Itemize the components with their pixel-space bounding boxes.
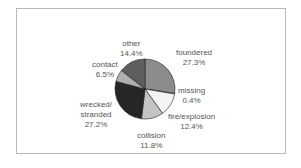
label-collision-pct: 11.8% bbox=[137, 141, 165, 151]
label-contact-pct: 6.5% bbox=[92, 70, 118, 80]
pie-slices bbox=[115, 59, 175, 119]
label-missing: missing 0.4% bbox=[178, 86, 205, 106]
label-other-name: other bbox=[120, 39, 143, 49]
label-fire-name: fire/explosion bbox=[168, 112, 215, 122]
label-collision-name: collision bbox=[137, 131, 165, 141]
label-contact-name: contact bbox=[92, 60, 118, 70]
label-foundered-pct: 27.3% bbox=[176, 58, 212, 68]
label-missing-name: missing bbox=[178, 86, 205, 96]
label-other-pct: 14.4% bbox=[120, 49, 143, 59]
pie-slice-foundered bbox=[145, 59, 175, 93]
label-foundered-name: foundered bbox=[176, 48, 212, 58]
label-wrecked-stranded: wrecked/ stranded 27.2% bbox=[80, 100, 112, 130]
label-fire-pct: 12.4% bbox=[168, 122, 215, 132]
label-missing-pct: 0.4% bbox=[178, 96, 205, 106]
label-foundered: foundered 27.3% bbox=[176, 48, 212, 68]
label-other: other 14.4% bbox=[120, 39, 143, 59]
label-wrecked-pct: 27.2% bbox=[80, 120, 112, 130]
label-wrecked-name2: stranded bbox=[80, 110, 112, 120]
label-fire-explosion: fire/explosion 12.4% bbox=[168, 112, 215, 132]
label-contact: contact 6.5% bbox=[92, 60, 118, 80]
label-wrecked-name1: wrecked/ bbox=[80, 100, 112, 110]
label-collision: collision 11.8% bbox=[137, 131, 165, 151]
